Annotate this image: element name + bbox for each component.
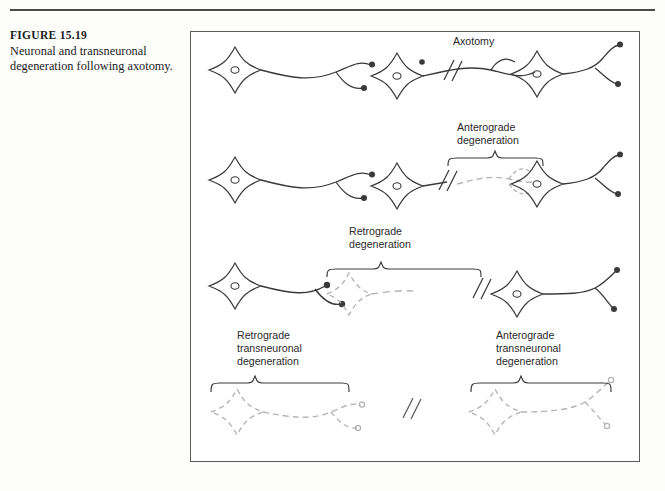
label-anterograde-transneuronal-line3: degeneration (496, 355, 558, 367)
label-axotomy: Axotomy (453, 35, 495, 47)
row2-neuron-a-soma (209, 157, 261, 203)
row4-left-axon-branch-degenerated (331, 412, 357, 428)
row-4-transneuronal: Retrograde transneuronal degeneration An… (211, 329, 614, 435)
row2-axon-c (563, 155, 619, 184)
row2-axotomy-cut-mark (439, 170, 457, 191)
row3-neuron-b-soma-degenerated (327, 273, 371, 315)
row2-neuron-c-nucleus (533, 181, 541, 187)
page-top-rule (10, 9, 655, 11)
row1-terminal-a1 (369, 62, 375, 68)
row2-terminal-a1 (369, 172, 375, 178)
row1-terminal-a2 (361, 85, 367, 91)
row2-neuron-c-soma (511, 161, 563, 207)
row1-terminal-arm-c1 (491, 59, 515, 70)
row3-terminal-c2 (611, 306, 617, 312)
row-1-normal: Axotomy (209, 35, 623, 99)
row4-axotomy-cut-mark (403, 398, 421, 419)
row1-terminal-c1 (617, 42, 623, 48)
row2-neuron-b-nucleus (393, 183, 401, 189)
neuron-degeneration-diagram: Axotomy (191, 32, 638, 460)
row2-axon-a (261, 173, 371, 188)
row4-left-axon-degenerated (263, 404, 361, 417)
row3-axon-b-degenerated (371, 291, 413, 294)
row4-left-brace (211, 376, 349, 392)
row1-neuron-c-soma (511, 51, 563, 97)
row2-terminal-arm-degenerated-1 (509, 169, 529, 179)
row2-brace (448, 151, 543, 166)
row1-axon-a-branch (336, 72, 363, 88)
row1-axon-b (423, 68, 535, 76)
row-3-retrograde: Retrograde degeneration (209, 225, 620, 317)
label-anterograde-degeneration-line2: degeneration (457, 134, 519, 146)
label-anterograde-transneuronal-line2: transneuronal (496, 342, 561, 354)
row4-right-axon-branch-degenerated (585, 402, 605, 424)
row3-neuron-c-nucleus (513, 291, 521, 297)
row1-neuron-a-nucleus (231, 67, 239, 73)
label-retrograde-transneuronal-line1: Retrograde (237, 329, 290, 341)
row1-neuron-b-nucleus (393, 73, 401, 79)
row3-brace (327, 262, 481, 277)
label-retrograde-transneuronal-line3: degeneration (237, 355, 299, 367)
row3-axon-c (543, 272, 615, 294)
row2-neuron-b-soma (371, 163, 423, 209)
row4-right-brace (471, 376, 611, 392)
row3-neuron-a-soma (209, 263, 261, 309)
row1-neuron-a-soma (209, 47, 261, 93)
label-retrograde-degeneration-line1: Retrograde (349, 225, 402, 237)
row3-neuron-c-soma (491, 271, 543, 317)
row3-terminal-a1 (324, 282, 330, 288)
row4-right-terminal-1 (608, 377, 613, 382)
row4-right-terminal-2 (604, 423, 609, 428)
label-anterograde-transneuronal-line1: Anterograde (496, 329, 554, 341)
figure-frame: Axotomy (190, 31, 640, 462)
row1-axon-c (563, 45, 619, 74)
row1-terminal-c2 (615, 81, 621, 87)
row3-axotomy-cut-mark (473, 278, 491, 299)
row4-left-neuron-soma-degenerated (211, 389, 263, 435)
row4-right-neuron-soma-degenerated (469, 389, 521, 435)
label-retrograde-transneuronal-line2: transneuronal (237, 342, 302, 354)
row2-terminal-c2 (615, 191, 621, 197)
row1-axon-a (261, 63, 371, 78)
row1-axon-c-branch (595, 68, 617, 84)
figure-number: FIGURE 15.19 (10, 28, 178, 42)
row-2-anterograde: Anterograde degeneration (209, 121, 623, 209)
row3-axon-a-branch (315, 289, 341, 304)
row1-terminal-b1 (419, 59, 425, 65)
row2-terminal-a2 (361, 195, 367, 201)
row2-terminal-c1 (617, 152, 623, 158)
row2-neuron-a-nucleus (231, 177, 239, 183)
row2-axon-a-branch (336, 182, 363, 198)
row1-neuron-b-soma (371, 53, 423, 99)
row4-left-terminal-1 (359, 402, 364, 407)
row3-axon-c-branch (595, 288, 613, 308)
label-retrograde-degeneration-line2: degeneration (349, 238, 411, 250)
row4-right-axon-degenerated (521, 382, 609, 412)
row3-terminal-c1 (614, 267, 620, 273)
label-anterograde-degeneration-line1: Anterograde (457, 121, 515, 133)
row2-axon-c-branch (595, 178, 617, 194)
figure-caption: FIGURE 15.19 Neuronal and transneuronal … (10, 28, 178, 73)
figure-caption-text: Neuronal and transneuronal degeneration … (10, 44, 178, 73)
row3-neuron-a-nucleus (231, 283, 239, 289)
row1-neuron-c-nucleus (533, 71, 541, 77)
